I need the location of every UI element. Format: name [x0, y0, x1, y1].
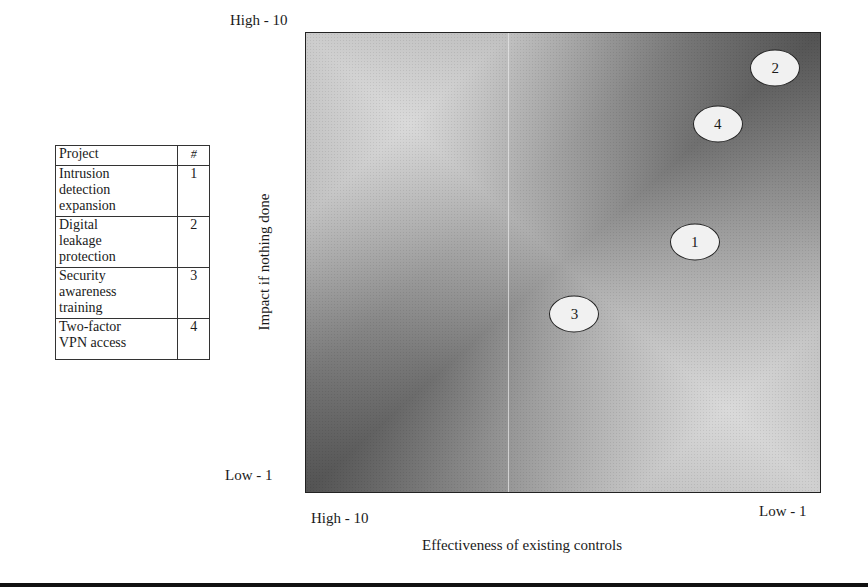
legend-row: Digital leakage protection 2 — [56, 217, 210, 268]
project-marker-2: 2 — [750, 49, 800, 86]
y-axis-title: Impact if nothing done — [256, 193, 273, 330]
project-marker-1: 1 — [670, 224, 720, 261]
y-axis-bottom-label: Low - 1 — [225, 467, 273, 484]
legend-header-row: Project # — [56, 146, 210, 166]
legend-project-number: 1 — [178, 166, 210, 217]
legend-line: VPN access — [59, 335, 126, 350]
legend-line: Digital — [59, 217, 98, 232]
x-axis-left-label: High - 10 — [311, 510, 369, 527]
legend-line: Intrusion — [59, 166, 110, 181]
legend-project-name: Intrusion detection expansion — [56, 166, 178, 217]
legend-row: Security awareness training 3 — [56, 268, 210, 319]
plot-vertical-guide — [508, 33, 509, 492]
bottom-rule-divider — [0, 583, 868, 587]
legend-row: Intrusion detection expansion 1 — [56, 166, 210, 217]
legend-line: training — [59, 300, 103, 315]
project-marker-3: 3 — [549, 295, 599, 332]
legend-line: detection — [59, 182, 110, 197]
legend-project-number: 2 — [178, 217, 210, 268]
x-axis-title: Effectiveness of existing controls — [422, 537, 622, 554]
legend-line: expansion — [59, 198, 116, 213]
legend-line: protection — [59, 249, 116, 264]
legend-project-name: Two-factor VPN access — [56, 319, 178, 360]
plot-area — [305, 32, 821, 493]
legend-line: awareness — [59, 284, 117, 299]
x-axis-right-label: Low - 1 — [759, 503, 807, 520]
y-axis-top-label: High - 10 — [230, 12, 288, 29]
legend-project-name: Digital leakage protection — [56, 217, 178, 268]
legend-header-number: # — [178, 146, 210, 166]
legend-line: leakage — [59, 233, 102, 248]
legend-header-project: Project — [56, 146, 178, 166]
project-marker-4: 4 — [693, 106, 743, 143]
project-legend-table: Project # Intrusion detection expansion … — [55, 145, 210, 360]
legend-line: Security — [59, 268, 106, 283]
legend-project-name: Security awareness training — [56, 268, 178, 319]
legend-line: Two-factor — [59, 319, 121, 334]
legend-project-number: 4 — [178, 319, 210, 360]
legend-row: Two-factor VPN access 4 — [56, 319, 210, 360]
legend-project-number: 3 — [178, 268, 210, 319]
